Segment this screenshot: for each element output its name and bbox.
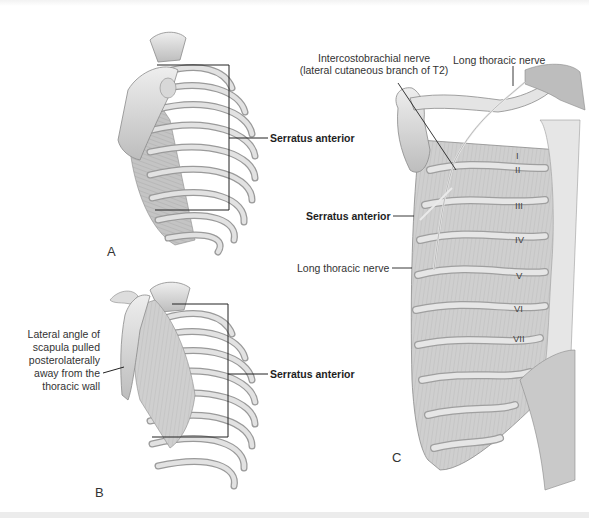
- callout-line: Intercostobrachial nerve: [294, 52, 454, 64]
- rib-numeral-2: II: [515, 164, 520, 175]
- rib-numeral-4: IV: [515, 234, 524, 245]
- panel-label-c: C: [392, 450, 401, 465]
- rib-numeral-1: I: [516, 150, 519, 161]
- rib-numeral-6: VI: [514, 303, 523, 314]
- callout-b-lateral-angle: Lateral angle of scapula pulled posterol…: [4, 328, 100, 393]
- panel-b-ribcage: [103, 282, 268, 486]
- bottom-strip: [0, 512, 589, 518]
- callout-c-long-thoracic-nerve-side: Long thoracic nerve: [297, 262, 389, 274]
- callout-a-serratus-anterior: Serratus anterior: [270, 132, 355, 144]
- panel-c-thorax: [392, 64, 585, 490]
- panel-a-ribcage: [118, 32, 268, 252]
- callout-b-serratus-anterior: Serratus anterior: [270, 368, 355, 380]
- callout-line: thoracic wall: [4, 380, 100, 393]
- callout-line: scapula pulled: [4, 341, 100, 354]
- callout-c-serratus-anterior: Serratus anterior: [306, 210, 391, 222]
- rib-numeral-3: III: [515, 200, 523, 211]
- callout-line: away from the: [4, 367, 100, 380]
- callout-line: Lateral angle of: [4, 328, 100, 341]
- rib-numeral-7: VII: [513, 333, 525, 344]
- callout-line: (lateral cutaneous branch of T2): [294, 64, 454, 76]
- callout-c-long-thoracic-nerve-top: Long thoracic nerve: [453, 54, 545, 66]
- callout-c-intercostobrachial-nerve: Intercostobrachial nerve (lateral cutane…: [294, 52, 454, 76]
- panel-label-b: B: [95, 485, 104, 500]
- callout-line: posterolaterally: [4, 354, 100, 367]
- anatomy-illustration: [0, 0, 589, 518]
- rib-numeral-5: V: [516, 270, 522, 281]
- panel-label-a: A: [107, 244, 116, 259]
